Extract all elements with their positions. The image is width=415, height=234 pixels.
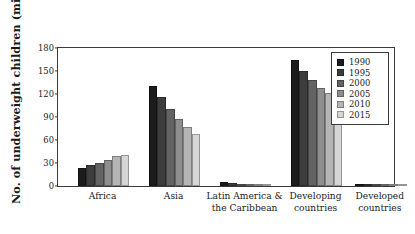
legend-swatch-icon <box>337 59 344 66</box>
bar <box>372 184 381 186</box>
y-axis-tick-label: 0 <box>8 181 58 191</box>
y-axis-tick-label: 120 <box>8 89 58 99</box>
legend-swatch-icon <box>337 90 344 97</box>
y-axis-tick-label: 150 <box>8 66 58 76</box>
bar <box>166 109 175 186</box>
y-axis-tick-mark <box>55 70 59 71</box>
y-axis-tick-label: 30 <box>8 158 58 168</box>
x-axis-category-label: Developed countries <box>342 191 415 214</box>
y-axis-tick-label: 180 <box>8 43 58 53</box>
y-axis-tick-mark <box>55 185 59 186</box>
bar <box>389 184 398 186</box>
y-axis-tick-mark <box>55 93 59 94</box>
bar-group <box>220 48 272 186</box>
legend-item[interactable]: 2000 <box>337 78 384 89</box>
legend-item-label: 2000 <box>349 78 370 88</box>
legend-item-label: 2005 <box>349 89 370 99</box>
legend-swatch-icon <box>337 80 344 87</box>
y-axis-tick-label: 90 <box>8 112 58 122</box>
bar <box>157 97 166 186</box>
bar <box>263 184 272 186</box>
x-axis-category-label: Developing countries <box>280 191 352 214</box>
bar <box>308 80 317 186</box>
legend-item[interactable]: 2015 <box>337 110 384 121</box>
legend-item[interactable]: 1990 <box>337 57 384 68</box>
y-axis-tick-mark <box>55 139 59 140</box>
legend: 199019952000200520102015 <box>331 52 389 125</box>
bar <box>317 88 326 186</box>
legend-item[interactable]: 2010 <box>337 99 384 110</box>
legend-swatch-icon <box>337 101 344 108</box>
bar <box>86 165 95 186</box>
bar <box>121 155 130 186</box>
legend-swatch-icon <box>337 69 344 76</box>
bar <box>192 134 201 186</box>
bar <box>104 160 113 186</box>
chart-figure: No. of underweight children (millions) 0… <box>0 0 415 234</box>
y-axis-tick-mark <box>55 116 59 117</box>
y-axis-tick-mark <box>55 162 59 163</box>
legend-item-label: 2015 <box>349 110 370 120</box>
bar <box>381 184 390 186</box>
bar <box>78 168 87 186</box>
bar <box>95 163 104 186</box>
bar <box>246 184 255 186</box>
bar <box>112 156 121 186</box>
bar <box>299 71 308 186</box>
x-axis-category-label: Africa <box>68 191 138 203</box>
x-axis-category-label: Asia <box>144 191 204 203</box>
bar <box>398 184 407 186</box>
legend-item[interactable]: 2005 <box>337 89 384 100</box>
bar <box>149 86 158 186</box>
bar <box>228 183 237 186</box>
y-axis-title: No. of underweight children (millions) <box>9 4 23 204</box>
bar <box>364 184 373 186</box>
y-axis-tick-label: 60 <box>8 135 58 145</box>
bar <box>254 184 263 186</box>
legend-item-label: 2010 <box>349 99 370 109</box>
bar-group <box>149 48 201 186</box>
x-axis-category-label: Latin America & the Caribbean <box>202 191 288 214</box>
bar <box>175 119 184 186</box>
legend-item-label: 1995 <box>349 68 370 78</box>
bar <box>183 127 192 186</box>
legend-item-label: 1990 <box>349 57 370 67</box>
legend-item[interactable]: 1995 <box>337 68 384 79</box>
bar <box>220 182 229 186</box>
y-axis-tick-mark <box>55 47 59 48</box>
bar-group <box>78 48 130 186</box>
bar <box>237 184 246 186</box>
bar <box>355 184 364 186</box>
legend-swatch-icon <box>337 111 344 118</box>
bar <box>291 60 300 186</box>
